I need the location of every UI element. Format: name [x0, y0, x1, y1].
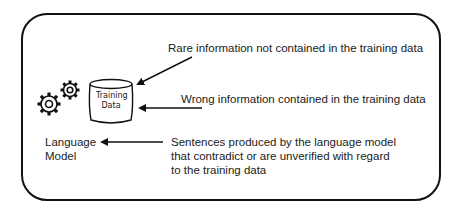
arrow-rare-to-training-data — [138, 57, 192, 84]
language-model-label-line1: Language — [45, 135, 96, 149]
annotation-sentences-line2: that contradict or are unverified with r… — [171, 149, 396, 163]
training-data-label-line2: Data — [96, 101, 126, 111]
language-model-label: Language Model — [45, 135, 96, 163]
diagram-graphics — [0, 0, 458, 214]
gears-icon — [38, 81, 80, 116]
annotation-sentences-line1: Sentences produced by the language model — [171, 135, 396, 149]
annotation-wrong: Wrong information contained in the train… — [181, 92, 426, 106]
training-data-label: Training Data — [96, 91, 126, 111]
annotation-sentences-line3: to the training data — [171, 163, 396, 177]
annotation-rare: Rare information not contained in the tr… — [168, 41, 423, 55]
annotation-sentences: Sentences produced by the language model… — [171, 135, 396, 177]
language-model-label-line2: Model — [45, 149, 96, 163]
training-data-label-line1: Training — [96, 91, 126, 101]
